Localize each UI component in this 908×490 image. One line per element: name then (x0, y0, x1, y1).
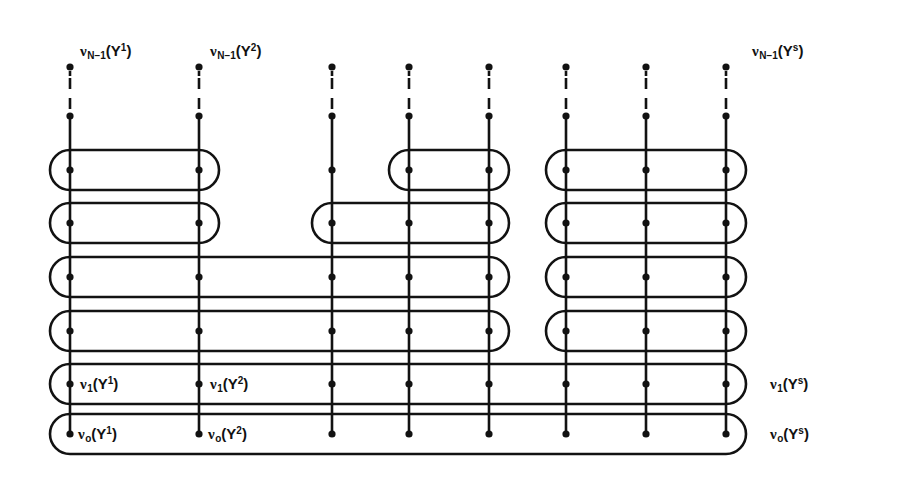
node-dot (562, 166, 569, 173)
loop-loop-d-1 (50, 311, 509, 351)
loop-loop-f-1 (50, 414, 746, 454)
node-dot (485, 430, 492, 437)
node-dot (405, 380, 412, 387)
node-dot (485, 219, 492, 226)
node-dot (328, 63, 335, 70)
label-close-paren: ) (804, 425, 809, 442)
node-dot (722, 63, 729, 70)
loop-loop-a-1 (50, 150, 219, 190)
node-dot (328, 327, 335, 334)
node-dot (195, 380, 202, 387)
label-close-paren: ) (113, 375, 118, 392)
node-dot (195, 327, 202, 334)
node-dot (562, 430, 569, 437)
node-dots-group (66, 63, 729, 437)
node-dot (642, 166, 649, 173)
label-nu-1-Y1: ν1(Y1) (80, 375, 118, 394)
node-dot (485, 273, 492, 280)
node-dot (66, 380, 73, 387)
label-open-paren: (Y (91, 425, 106, 442)
node-dot (328, 219, 335, 226)
label-nu-1-Y2: ν1(Y2) (210, 375, 248, 394)
loop-loop-c-1 (50, 257, 509, 297)
node-dot (722, 380, 729, 387)
nu-subscript: N−1 (217, 50, 236, 61)
node-dot (642, 430, 649, 437)
label-nu-0-Ys: νo(Ys) (770, 425, 809, 444)
label-open-paren: (Y (778, 42, 793, 59)
node-dot (66, 273, 73, 280)
node-dot (195, 63, 202, 70)
node-dot (485, 327, 492, 334)
label-close-paren: ) (803, 375, 808, 392)
node-dot (328, 430, 335, 437)
label-open-paren: (Y (783, 375, 798, 392)
node-dot (722, 273, 729, 280)
node-dot (405, 327, 412, 334)
node-dot (195, 273, 202, 280)
loop-group (50, 150, 746, 454)
label-nu-0-Y1: νo(Y1) (78, 425, 117, 444)
node-dot (328, 166, 335, 173)
node-dot (485, 166, 492, 173)
node-dot (642, 63, 649, 70)
node-dot (195, 166, 202, 173)
loop-loop-b-1 (50, 203, 219, 243)
node-dot (642, 273, 649, 280)
label-close-paren: ) (256, 42, 261, 59)
node-dot (405, 63, 412, 70)
node-dot (328, 112, 335, 119)
node-dot (722, 327, 729, 334)
node-dot (722, 166, 729, 173)
node-dot (66, 430, 73, 437)
node-dot (642, 219, 649, 226)
label-close-paren: ) (112, 425, 117, 442)
node-dot (642, 327, 649, 334)
label-nu-1-Ys: ν1(Ys) (770, 375, 808, 394)
node-dot (485, 63, 492, 70)
node-dot (195, 219, 202, 226)
label-close-paren: ) (126, 42, 131, 59)
label-nu-N1-Y1: νN−1(Y1) (80, 42, 131, 61)
label-close-paren: ) (243, 375, 248, 392)
lattice-diagram (0, 0, 908, 490)
node-dot (405, 166, 412, 173)
node-dot (642, 112, 649, 119)
figure-canvas: νN−1(Y1)νN−1(Y2)νN−1(Ys)ν1(Y1)ν1(Y2)ν1(Y… (0, 0, 908, 490)
node-dot (66, 112, 73, 119)
node-dot (485, 380, 492, 387)
node-dot (328, 380, 335, 387)
label-close-paren: ) (798, 42, 803, 59)
label-nu-N1-Ys: νN−1(Ys) (752, 42, 803, 61)
label-nu-0-Y2: νo(Y2) (208, 425, 247, 444)
label-close-paren: ) (242, 425, 247, 442)
nu-subscript: N−1 (759, 50, 778, 61)
node-dot (642, 380, 649, 387)
node-dot (722, 430, 729, 437)
node-dot (562, 219, 569, 226)
node-dot (195, 112, 202, 119)
node-dot (195, 430, 202, 437)
node-dot (562, 63, 569, 70)
nu-subscript: N−1 (87, 50, 106, 61)
label-open-paren: (Y (221, 425, 236, 442)
node-dot (722, 219, 729, 226)
node-dot (66, 166, 73, 173)
node-dot (66, 327, 73, 334)
node-dot (722, 112, 729, 119)
node-dot (562, 112, 569, 119)
node-dot (485, 112, 492, 119)
label-open-paren: (Y (106, 42, 121, 59)
label-open-paren: (Y (93, 375, 108, 392)
loop-loop-e-1 (50, 364, 746, 404)
node-dot (562, 327, 569, 334)
label-open-paren: (Y (236, 42, 251, 59)
column-lines-group (70, 71, 726, 434)
node-dot (405, 430, 412, 437)
node-dot (405, 219, 412, 226)
node-dot (66, 219, 73, 226)
node-dot (405, 273, 412, 280)
label-nu-N1-Y2: νN−1(Y2) (210, 42, 261, 61)
label-open-paren: (Y (223, 375, 238, 392)
label-open-paren: (Y (783, 425, 798, 442)
